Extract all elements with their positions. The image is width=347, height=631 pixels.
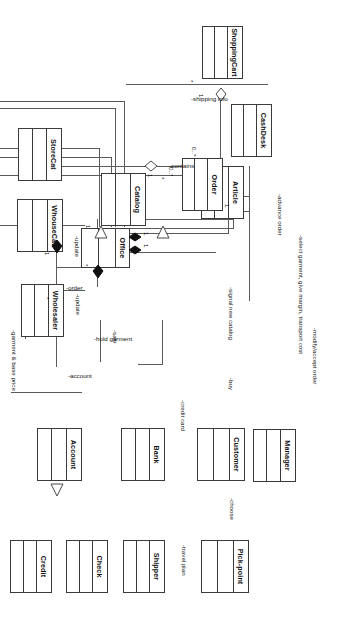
class-ops-customer <box>198 429 213 480</box>
edge-whousecat-wholesaler <box>11 392 82 393</box>
edge-cart-down <box>126 84 268 85</box>
edge-label-choose: -choose <box>229 498 235 520</box>
class-ops-cashdesk <box>232 105 244 156</box>
class-check[interactable]: Check <box>66 540 108 593</box>
class-attrs-wholesaler <box>35 285 49 336</box>
generalization-arrow-icon <box>50 484 63 497</box>
class-attrs-bank <box>135 429 149 480</box>
composition-diamond-icon <box>128 245 141 255</box>
edge-cart-article <box>220 100 221 166</box>
edge-label-buy: -buy <box>228 378 234 390</box>
class-cashdesk[interactable]: CashDesk <box>231 104 272 157</box>
class-attrs-customer <box>213 429 229 480</box>
class-attrs-shoppingcart <box>215 27 228 78</box>
class-ops-whousecat <box>18 200 32 251</box>
edge-cashdesk-rail1v <box>126 228 234 229</box>
edge-customer-buy-h <box>99 148 100 227</box>
class-ops-pickpoint <box>202 541 217 592</box>
class-wholesaler[interactable]: Wholesaler <box>21 284 64 337</box>
multiplicity: 1 <box>143 232 149 235</box>
multiplicity: 0..* <box>168 167 174 176</box>
generalization-arrow-icon <box>94 226 107 239</box>
edge-label-modify-accept-order: -modify/accept order <box>312 328 318 384</box>
multiplicity: 1 <box>44 252 50 255</box>
class-ops-check <box>67 541 79 592</box>
class-name-pickpoint: Pick-point <box>233 541 248 592</box>
class-account[interactable]: Account <box>37 428 82 481</box>
edge-label-order: -order <box>66 285 83 291</box>
class-attrs-pickpoint <box>217 541 233 592</box>
composition-diamond-icon <box>93 265 103 279</box>
class-name-credit: Credit <box>36 541 51 592</box>
edge-label-travel-plan: -travel plan <box>181 545 187 576</box>
class-pickpoint[interactable]: Pick-point <box>201 540 249 593</box>
edge-storecat-h <box>162 320 163 364</box>
multiplicity: * <box>83 264 89 266</box>
class-attrs-order <box>195 159 208 210</box>
edge-label-shipping-info: -shipping info <box>191 96 228 102</box>
multiplicity: 1 <box>198 94 204 97</box>
edge-label-advance-order: -advance order <box>277 194 283 236</box>
edge-manager-office-bv <box>0 108 116 109</box>
class-catalog[interactable]: Catalog <box>101 173 146 226</box>
class-name-manager: Manager <box>280 430 295 481</box>
composition-diamond-icon <box>52 240 62 254</box>
generalization-arrow-icon <box>156 226 169 239</box>
class-attrs-credit <box>23 541 36 592</box>
class-attrs-manager <box>267 430 281 481</box>
multiplicity: 1 <box>224 204 230 207</box>
class-shoppingcart[interactable]: ShoppingCart <box>202 26 243 79</box>
class-attrs-storecat <box>32 129 46 180</box>
edge-cashdesk-rail2v <box>126 233 229 234</box>
class-name-account: Account <box>66 429 81 480</box>
class-name-order: Order <box>207 159 222 210</box>
class-attrs-shipper <box>136 541 149 592</box>
edge-label-signal-new-catalog: -signal new catalog <box>228 287 234 340</box>
class-ops-bank <box>122 429 135 480</box>
class-ops-shoppingcart <box>203 27 215 78</box>
class-ops-wholesaler <box>22 285 35 336</box>
edge-storecat-v <box>138 364 163 365</box>
class-name-article: Article <box>228 167 243 218</box>
multiplicity: 1 <box>147 174 153 177</box>
class-customer[interactable]: Customer <box>197 428 245 481</box>
edge-manager-office-av <box>0 101 125 102</box>
edge-label-update-catalog: -update <box>74 236 80 257</box>
aggregation-diamond-icon <box>144 160 157 172</box>
multiplicity: 1 <box>85 225 91 228</box>
class-attrs-cashdesk <box>244 105 257 156</box>
class-name-bank: Bank <box>149 429 164 480</box>
class-name-shipper: Shipper <box>149 541 164 592</box>
edge-label-hold-garment: -hold garment <box>94 336 132 342</box>
multiplicity: * <box>188 80 194 82</box>
edge-order-top <box>249 166 250 212</box>
class-name-office: Office <box>115 229 129 267</box>
edge-label-select-garment: -select garment, give margin, transport … <box>298 235 304 354</box>
class-name-customer: Customer <box>229 429 244 480</box>
class-storecat[interactable]: StoreCat <box>18 128 62 181</box>
class-ops-account <box>38 429 52 480</box>
multiplicity: * <box>44 297 50 299</box>
class-attrs-check <box>79 541 92 592</box>
class-bank[interactable]: Bank <box>121 428 165 481</box>
edge-label-account: -account <box>68 373 92 379</box>
edge-cashdesk-top <box>249 211 250 301</box>
class-name-check: Check <box>92 541 107 592</box>
multiplicity: 1 <box>143 244 149 247</box>
diagram-canvas: ShoppingCart Article CashDesk Order Cata… <box>0 0 347 631</box>
diagram-plane: ShoppingCart Article CashDesk Order Cata… <box>0 0 347 631</box>
class-ops-manager <box>254 430 267 481</box>
class-ops-catalog <box>102 174 116 225</box>
class-ops-credit <box>11 541 23 592</box>
class-ops-storecat <box>19 129 32 180</box>
edge-label-garment-base-price: -garment & base price <box>11 330 17 391</box>
multiplicity: * <box>159 177 165 179</box>
class-name-cashdesk: CashDesk <box>256 105 271 156</box>
class-manager[interactable]: Manager <box>253 429 296 482</box>
class-attrs-account <box>52 429 67 480</box>
class-shipper[interactable]: Shipper <box>123 540 165 593</box>
composition-diamond-icon <box>128 232 141 242</box>
multiplicity: 0..* <box>191 147 197 156</box>
class-attrs-whousecat <box>32 200 47 251</box>
class-credit[interactable]: Credit <box>10 540 52 593</box>
